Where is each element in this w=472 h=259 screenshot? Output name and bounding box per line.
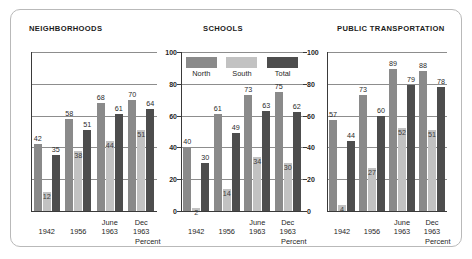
x-category-label: Dec1963 (267, 218, 310, 236)
gridline (181, 116, 303, 117)
y-axis-line (31, 52, 32, 211)
x-category-label: Dec1963 (411, 218, 453, 236)
bar-value-label: 62 (288, 103, 306, 111)
y-tick-mark (177, 147, 181, 148)
bar-value-label: 73 (239, 86, 257, 94)
bar-value-label: 57 (324, 111, 342, 119)
x-axis-label: Percent (425, 237, 450, 246)
gridline (327, 116, 447, 117)
bar-south-dec-1963 (428, 130, 436, 211)
bar-value-label: 64 (141, 100, 159, 108)
bar-north-1956 (65, 119, 73, 211)
bar-total-1956 (377, 116, 385, 211)
bar-value-label: 88 (414, 62, 432, 70)
y-tick-mark (303, 211, 307, 212)
plot-area-neighborhoods: 42123519425838511956684461June1963705164… (19, 10, 163, 248)
bar-value-label: 42 (29, 135, 47, 143)
y-tick-label: 20 (159, 176, 177, 183)
legend-swatch-north (186, 57, 217, 68)
bar-value-label: 51 (78, 121, 96, 129)
bar-value-label: 60 (372, 107, 390, 115)
bar-total-june-1963 (407, 85, 415, 211)
bar-south-june-1963 (398, 128, 406, 211)
legend-swatch-south (226, 57, 257, 68)
bar-value-label: 63 (257, 102, 275, 110)
x-category-line: 1963 (120, 227, 164, 236)
chart-panel-schools: SCHOOLS 02040608010002040608010040230194… (163, 10, 315, 248)
bar-north-dec-1963 (275, 92, 283, 211)
chart-frame: NEIGHBORHOODS 42123519425838511956684461… (10, 9, 462, 247)
x-category-line: 1963 (267, 227, 310, 236)
y-tick-mark (177, 211, 181, 212)
bar-north-june-1963 (97, 103, 105, 211)
bar-value-label: 44 (342, 132, 360, 140)
bar-value-label: 40 (178, 138, 196, 146)
y-tick-mark (303, 116, 307, 117)
y-tick-mark (303, 147, 307, 148)
bar-north-dec-1963 (128, 100, 136, 211)
bar-value-label: 35 (47, 146, 65, 154)
bar-total-1956 (83, 130, 91, 211)
bar-north-1942 (329, 120, 337, 211)
bar-value-label: 58 (60, 110, 78, 118)
y-tick-mark (303, 84, 307, 85)
bar-south-1956 (74, 151, 82, 211)
chart-panel-neighborhoods: NEIGHBORHOODS 42123519425838511956684461… (19, 10, 163, 248)
bar-total-june-1963 (262, 111, 270, 211)
x-axis-label: Percent (135, 237, 160, 246)
bar-value-label: 61 (110, 105, 128, 113)
y-tick-label: 60 (159, 113, 177, 120)
bar-north-1942 (183, 147, 191, 211)
gridline (31, 84, 157, 85)
bar-value-label: 61 (209, 105, 227, 113)
bar-north-1956 (359, 95, 367, 211)
legend-label: South (222, 69, 263, 78)
bar-value-label: 78 (432, 78, 450, 86)
bar-value-label: 79 (402, 76, 420, 84)
bar-value-label: 68 (92, 94, 110, 102)
gridline (31, 52, 157, 53)
y-tick-mark (303, 52, 307, 53)
x-category-line: Dec (120, 218, 164, 227)
x-category-line: Dec (267, 218, 310, 227)
y-tick-mark (177, 116, 181, 117)
y-tick-mark (177, 84, 181, 85)
bar-total-1942 (201, 163, 209, 211)
bar-total-june-1963 (115, 114, 123, 211)
gridline (31, 211, 157, 212)
bar-value-label: 49 (227, 124, 245, 132)
bar-value-label: 70 (123, 91, 141, 99)
chart-legend: NorthSouthTotal (181, 57, 303, 83)
y-tick-mark (177, 52, 181, 53)
legend-item-south[interactable]: South (222, 57, 263, 78)
bar-total-dec-1963 (437, 87, 445, 211)
gridline (181, 52, 303, 53)
legend-label: North (181, 69, 222, 78)
gridline (31, 116, 157, 117)
legend-label: Total (262, 69, 303, 78)
bar-total-1956 (232, 133, 240, 211)
bar-total-dec-1963 (293, 112, 301, 211)
x-category-line: Dec (411, 218, 453, 227)
plot-area-schools: 0204060801000204060801004023019426114491… (163, 10, 315, 248)
y-axis-line (327, 52, 328, 211)
plot-area-public-transportation: 5744419427327601956895279June1963885178D… (315, 10, 455, 248)
bar-north-june-1963 (244, 95, 252, 211)
bar-value-label: 73 (354, 86, 372, 94)
bar-value-label: 89 (384, 60, 402, 68)
bar-south-dec-1963 (137, 130, 145, 211)
y-tick-label: 100 (159, 49, 177, 56)
y-tick-label: 0 (159, 208, 177, 215)
bar-north-dec-1963 (419, 71, 427, 211)
bar-total-1942 (347, 141, 355, 211)
x-axis-label: Percent (281, 237, 306, 246)
x-category-label: Dec1963 (120, 218, 164, 236)
bar-north-1942 (34, 144, 42, 211)
legend-item-total[interactable]: Total (262, 57, 303, 78)
bar-south-june-1963 (106, 141, 114, 211)
y-tick-label: 40 (159, 144, 177, 151)
bar-total-1942 (52, 155, 60, 211)
bar-north-june-1963 (389, 69, 397, 211)
legend-item-north[interactable]: North (181, 57, 222, 78)
x-category-line: 1963 (411, 227, 453, 236)
